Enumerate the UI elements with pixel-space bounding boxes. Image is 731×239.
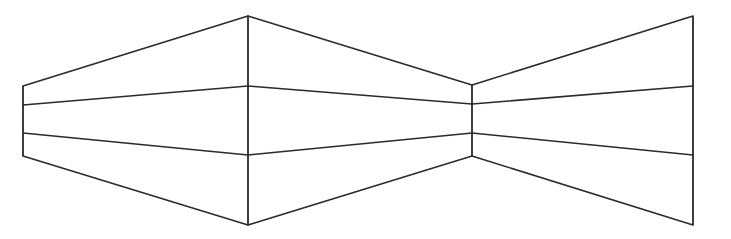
middle-upper-mid-line [248,86,472,104]
perspective-illusion-figure [0,0,731,239]
left-top-line [23,16,248,86]
right-bottom-line [472,156,693,225]
middle-lower-mid-line [248,133,472,155]
right-top-line [472,16,693,85]
right-lower-mid-line [472,133,693,155]
left-upper-mid-line [23,86,248,105]
left-bottom-line [23,156,248,225]
left-lower-mid-line [23,133,248,155]
illusion-drawing [0,0,731,239]
right-upper-mid-line [472,86,693,104]
middle-bottom-line [248,156,472,225]
middle-top-line [248,16,472,85]
